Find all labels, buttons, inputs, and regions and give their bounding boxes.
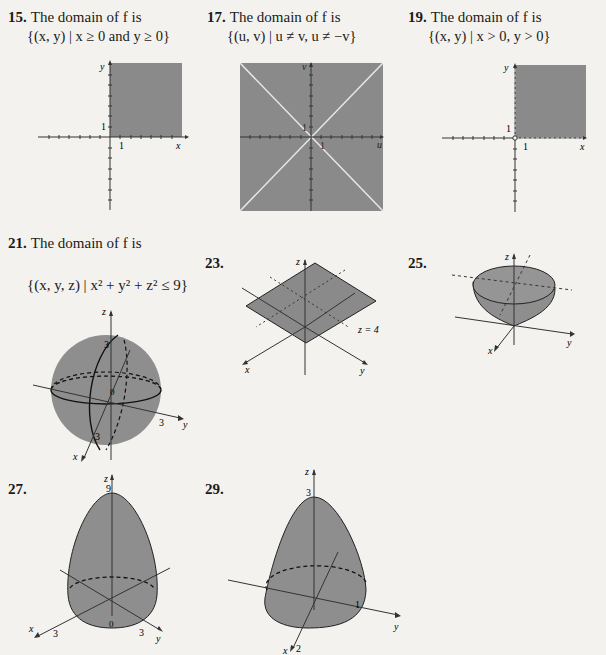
x-intercept-label: 2	[296, 643, 301, 654]
v-axis-label: v	[302, 61, 307, 72]
problem-number: 17.	[207, 9, 226, 25]
x-tick-label: 1	[523, 141, 528, 152]
domain-set-21: {(x, y, z) | x² + y² + z² ≤ 9}	[27, 277, 188, 294]
figure-15-region-plot: y x 1 1	[20, 55, 200, 215]
figure-25-paraboloid: z y x	[400, 215, 606, 355]
domain-set-17: {(u, v) | u ≠ v, u ≠ −v}	[227, 28, 356, 45]
y-tick-label: 1	[302, 122, 307, 133]
problem-statement: The domain of f is	[230, 9, 341, 25]
origin-label: 0	[110, 387, 115, 397]
y-tick-label: 1	[101, 121, 106, 132]
problem-statement: The domain of f is	[31, 9, 142, 25]
z-intercept-label: 9	[106, 483, 111, 494]
x-axis-label: x	[72, 451, 78, 462]
figure-23-plane: z x y z = 4	[200, 215, 400, 375]
z-intercept-label: 3	[306, 487, 311, 498]
y-intercept-label: 3	[159, 417, 164, 428]
problem-number: 15.	[8, 9, 27, 25]
y-axis-label: y	[503, 62, 509, 73]
z-axis-label: z	[295, 256, 300, 267]
x-axis-label: x	[487, 345, 493, 356]
z-axis-label: z	[101, 306, 106, 317]
problem-19: 19. The domain of f is	[408, 8, 542, 26]
figure-29-paraboloid: z 3 1 2 y x	[190, 470, 410, 655]
plane-equation-label: z = 4	[357, 324, 379, 335]
x-tick-label: 1	[119, 140, 124, 151]
problem-statement: The domain of f is	[431, 9, 542, 25]
figure-17-region-plot: v u 1 1	[220, 55, 410, 220]
figure-27-paraboloid: z 9 0 3 3 x y	[20, 480, 200, 655]
x-intercept-label: 3	[53, 628, 58, 639]
y-intercept-label: 1	[355, 599, 360, 610]
x-axis-label: x	[282, 645, 288, 655]
x-intercept-label: 3	[95, 431, 100, 442]
problem-statement: The domain of f is	[31, 235, 142, 251]
domain-set-15: {(x, y) | x ≥ 0 and y ≥ 0}	[27, 28, 170, 45]
problem-17: 17. The domain of f is	[207, 8, 341, 26]
y-axis-label: y	[99, 61, 105, 72]
u-axis-label: u	[377, 139, 382, 150]
y-axis-label: y	[155, 633, 161, 644]
problem-15: 15. The domain of f is	[8, 8, 142, 26]
problem-number: 21.	[8, 235, 27, 251]
problem-number: 19.	[408, 9, 427, 25]
y-tick-label: 1	[506, 123, 511, 134]
x-tick-label: 1	[320, 140, 325, 151]
z-axis-label: z	[504, 251, 509, 262]
y-intercept-label: 3	[139, 627, 144, 638]
z-axis-label: z	[304, 466, 309, 477]
y-axis-label: y	[393, 621, 399, 632]
x-axis-label: x	[579, 141, 585, 152]
figure-21-ball: z y x 3 3 3 0	[20, 300, 200, 500]
x-axis-label: x	[175, 140, 181, 151]
x-axis-label: x	[244, 364, 250, 375]
y-axis-label: y	[182, 419, 188, 430]
z-intercept-label: 3	[104, 339, 109, 350]
origin-label: 0	[109, 619, 114, 629]
problem-21: 21. The domain of f is	[8, 234, 142, 252]
y-axis-label: y	[566, 337, 572, 348]
domain-set-19: {(x, y) | x > 0, y > 0}	[428, 28, 551, 45]
figure-19-region-plot: y x 1 1	[420, 55, 606, 215]
y-axis-label: y	[359, 365, 365, 376]
x-axis-label: x	[28, 623, 34, 634]
